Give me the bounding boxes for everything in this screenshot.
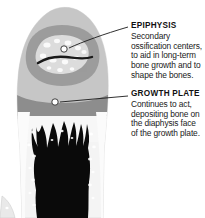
callout-epiphysis-heading: EPIPHYSIS: [131, 21, 205, 31]
fragment-speckle: [5, 207, 8, 209]
callout-growth-plate-body: Continues to act, depositing bone on the…: [131, 100, 205, 139]
marrow-cavity: [32, 121, 90, 218]
long-bone-illustration: [0, 0, 125, 218]
callout-epiphysis: EPIPHYSIS Secondary ossification centers…: [131, 21, 205, 81]
callout-growth-plate-heading: GROWTH PLATE: [131, 89, 205, 99]
callout-growth-plate: GROWTH PLATE Continues to act, depositin…: [131, 89, 205, 139]
callout-growth-plate-line-4: of the growth plate.: [131, 129, 205, 139]
bone-body: [0, 0, 114, 218]
callout-epiphysis-line-5: shape the bones.: [131, 71, 205, 81]
callout-epiphysis-body: Secondary ossification centers, to aid i…: [131, 32, 205, 81]
bone-anatomy-figure: EPIPHYSIS Secondary ossification centers…: [0, 0, 205, 218]
